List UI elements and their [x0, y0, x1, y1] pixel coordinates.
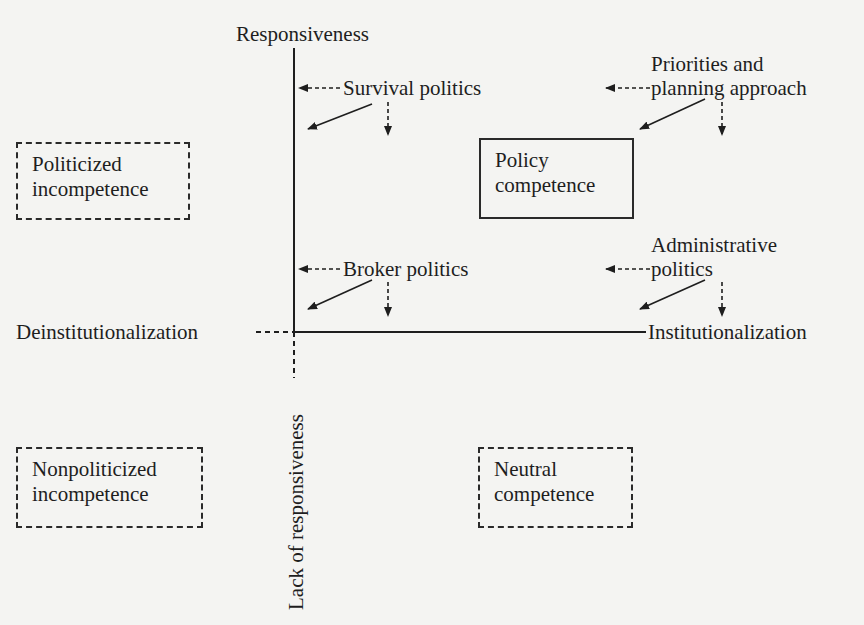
force-broker-politics: Broker politics: [343, 257, 468, 282]
box-policy-competence: Policy competence: [479, 138, 634, 219]
axis-label-institutionalization: Institutionalization: [648, 320, 807, 345]
responsiveness-institutionalization-diagram: Responsiveness Deinstitutionalization In…: [0, 0, 864, 625]
box-neutral-competence: Neutral competence: [478, 447, 633, 528]
box-line1: Nonpoliticized: [32, 457, 201, 482]
force-priorities-line1: Priorities and: [651, 52, 764, 77]
box-politicized-incompetence: Politicized incompetence: [16, 142, 190, 220]
box-line2: competence: [494, 482, 631, 507]
force-administrative-line1: Administrative: [651, 233, 777, 258]
administrative-diagonal-arrow: [640, 280, 705, 309]
box-line1: Neutral: [494, 457, 631, 482]
box-line2: incompetence: [32, 177, 188, 202]
survival-diagonal-arrow: [308, 104, 372, 129]
broker-diagonal-arrow: [308, 280, 372, 309]
box-nonpoliticized-incompetence: Nonpoliticized incompetence: [16, 447, 203, 528]
box-line2: competence: [495, 173, 632, 198]
box-line1: Politicized: [32, 152, 188, 177]
force-priorities-line2: planning approach: [651, 76, 807, 101]
axis-label-responsiveness: Responsiveness: [236, 22, 369, 47]
axis-label-lack-of-responsiveness: Lack of responsiveness: [284, 414, 309, 610]
box-line2: incompetence: [32, 482, 201, 507]
force-survival-politics: Survival politics: [343, 76, 481, 101]
box-line1: Policy: [495, 148, 632, 173]
force-administrative-line2: politics: [651, 257, 713, 282]
priorities-diagonal-arrow: [640, 99, 705, 129]
axis-label-deinstitutionalization: Deinstitutionalization: [16, 320, 198, 345]
